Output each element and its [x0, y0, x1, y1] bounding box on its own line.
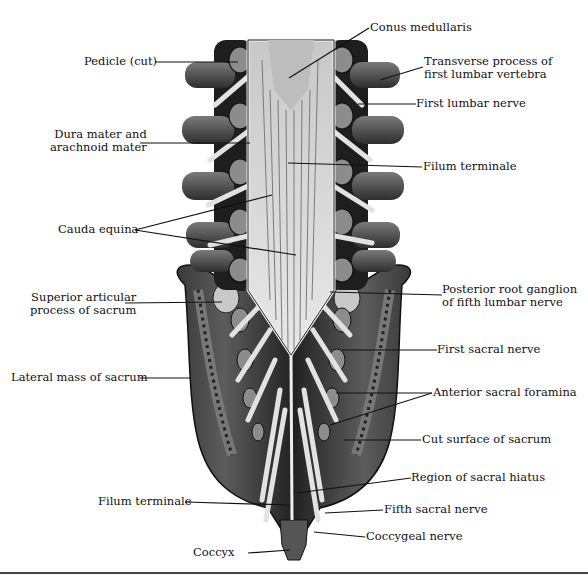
- bottom-rule: [0, 572, 588, 574]
- label-coccygeal-nerve: Coccygeal nerve: [366, 530, 462, 543]
- label-transverse-process: Transverse process of first lumbar verte…: [424, 55, 552, 81]
- label-fifth-sacral-nerve: Fifth sacral nerve: [384, 503, 488, 516]
- label-pedicle: Pedicle (cut): [84, 55, 157, 68]
- label-conus-medullaris: Conus medullaris: [370, 21, 472, 34]
- label-first-lumbar-nerve: First lumbar nerve: [416, 97, 526, 110]
- label-dura-line2: arachnoid mater: [50, 141, 147, 154]
- label-coccyx: Coccyx: [193, 546, 235, 559]
- label-prg-line2: of fifth lumbar nerve: [442, 296, 577, 309]
- label-tp-line2: first lumbar vertebra: [424, 68, 552, 81]
- label-dura-mater: Dura mater and arachnoid mater: [50, 128, 147, 154]
- label-lateral-mass: Lateral mass of sacrum: [11, 371, 148, 384]
- label-cauda-equina: Cauda equina: [58, 223, 138, 236]
- label-sacral-hiatus: Region of sacral hiatus: [411, 471, 545, 484]
- label-filum-terminale-lower: Filum terminale: [98, 495, 192, 508]
- label-sup-line2: process of sacrum: [30, 304, 136, 317]
- label-cut-surface: Cut surface of sacrum: [422, 433, 551, 446]
- label-first-sacral-nerve: First sacral nerve: [437, 343, 540, 356]
- label-filum-terminale-upper: Filum terminale: [423, 160, 517, 173]
- label-superior-articular: Superior articular process of sacrum: [30, 291, 136, 317]
- anatomy-figure: Pedicle (cut) Dura mater and arachnoid m…: [0, 0, 588, 578]
- label-anterior-sacral-foramina: Anterior sacral foramina: [433, 386, 577, 399]
- label-posterior-root-ganglion: Posterior root ganglion of fifth lumbar …: [442, 283, 577, 309]
